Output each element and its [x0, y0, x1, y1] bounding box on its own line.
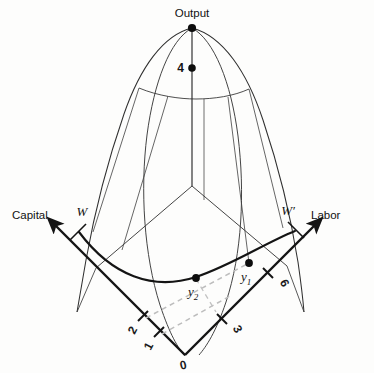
point-y2-label: y2	[186, 284, 199, 302]
capital-tick-label-2: 2	[125, 324, 141, 337]
origin-label: 0	[178, 357, 188, 372]
point-markers	[188, 24, 253, 282]
isoquant-label-W-prime: W′	[281, 203, 295, 218]
production-surface-figure: Output Capital Labor 4 0 2 1 3 6 W W′ y1…	[0, 0, 374, 373]
labor-tick-label-6: 6	[277, 277, 293, 290]
dashed-y2-drop	[196, 279, 216, 312]
labor-tick-label-3: 3	[230, 323, 246, 336]
output-surface	[77, 28, 304, 356]
diagram-canvas: Output Capital Labor 4 0 2 1 3 6 W W′ y1…	[0, 0, 374, 373]
capital-axis-line[interactable]	[52, 222, 185, 355]
point-y1-dot	[245, 259, 253, 267]
surface-ridge-right	[192, 186, 287, 266]
isoquant-curve-group	[79, 231, 295, 282]
base-axes	[52, 222, 318, 355]
output-axis-label: Output	[175, 7, 210, 19]
point-y1-subscript: 1	[247, 277, 252, 287]
point-y2-subscript: 2	[194, 292, 199, 302]
point-y2-dot	[192, 274, 200, 282]
surface-outline-left	[77, 28, 192, 312]
surface-outline-right	[192, 28, 304, 312]
surface-rib-1	[93, 88, 139, 232]
dashed-capital-1-to-y2	[162, 296, 230, 334]
output-level-4-dot	[188, 64, 196, 72]
dashed-capital-2-to-y1	[146, 263, 249, 318]
isoquant-label-W: W	[77, 204, 89, 219]
surface-rib-tail-left	[77, 268, 96, 312]
labor-axis-line[interactable]	[185, 222, 318, 355]
surface-rib-3	[249, 89, 283, 228]
peak-point-dot	[188, 24, 196, 32]
point-y1-label: y1	[239, 269, 251, 287]
capital-tick-label-1: 1	[141, 340, 157, 353]
isoquant-endpoint-tick-right	[288, 222, 304, 238]
isoquant-WW-prime[interactable]	[79, 231, 295, 282]
surface-rib-4	[228, 97, 249, 263]
capital-axis-label: Capital	[12, 209, 48, 221]
labor-axis-label: Labor	[311, 209, 341, 221]
svg-text:y2: y2	[186, 284, 199, 302]
output-level-label: 4	[177, 61, 184, 75]
svg-text:y1: y1	[239, 269, 251, 287]
